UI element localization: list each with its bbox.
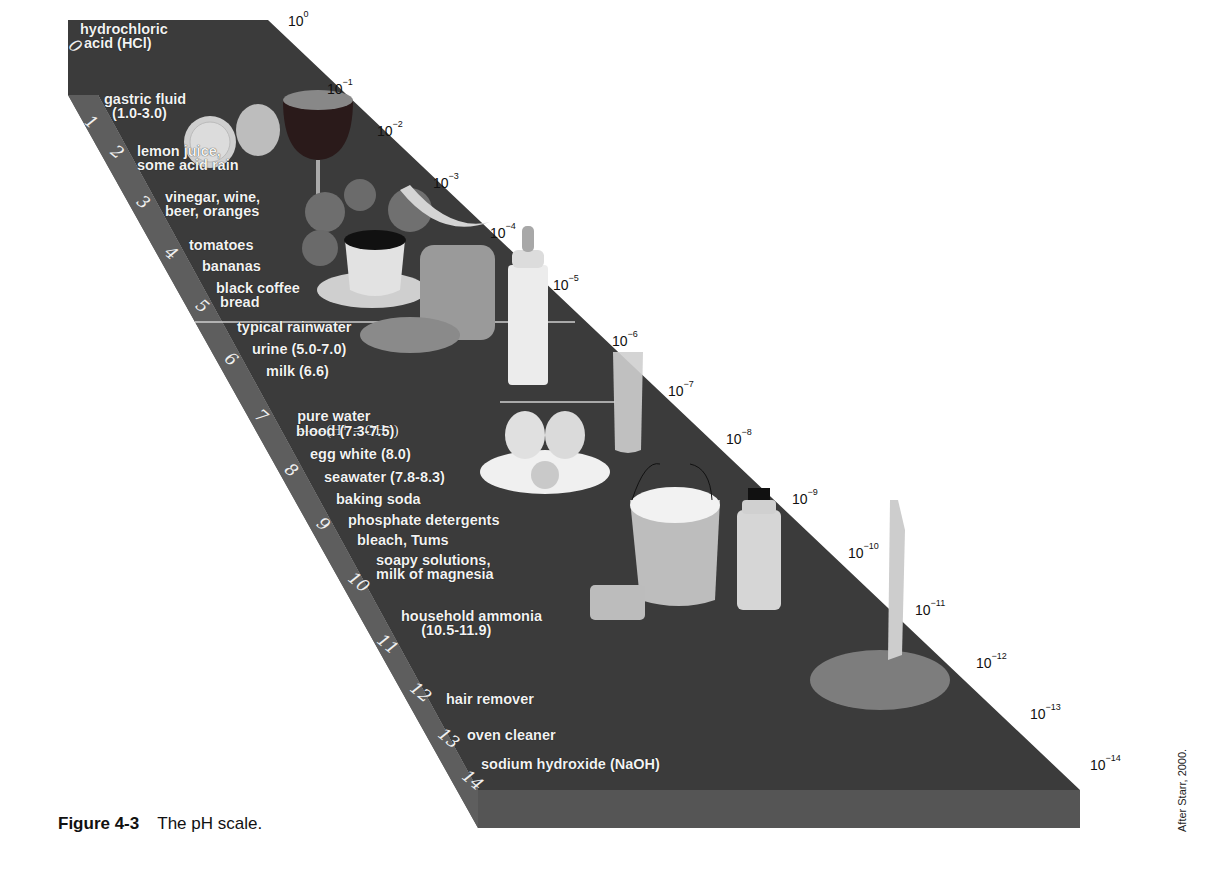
water-glass-icon: [613, 352, 643, 453]
label-household-ammonia: household ammonia (10.5-11.9): [401, 609, 542, 637]
label-typical-rainwater: typical rainwater: [237, 320, 351, 334]
slab-front-face: [478, 790, 1080, 828]
baby-bottle-icon: [508, 226, 548, 385]
label-blood: blood (7.3-7.5): [296, 424, 394, 438]
conc-label-4: 10−4: [490, 224, 516, 241]
bleach-bottle-icon: [737, 488, 781, 610]
conc-label-5: 10−5: [553, 276, 579, 293]
label-lemon-juice: lemon juice, some acid rain: [137, 144, 239, 172]
conc-label-13: 10−13: [1030, 705, 1061, 722]
conc-label-9: 10−9: [792, 490, 818, 507]
label-sodium-hydroxide: sodium hydroxide (NaOH): [481, 757, 660, 771]
conc-label-8: 10−8: [726, 430, 752, 447]
conc-label-11: 10−11: [915, 601, 945, 618]
conc-label-6: 10−6: [612, 332, 638, 349]
label-vinegar: vinegar, wine, beer, oranges: [165, 190, 260, 218]
conc-label-14: 10−14: [1090, 756, 1121, 773]
conc-label-2: 10−2: [377, 122, 403, 139]
ph-slab: [0, 0, 1217, 879]
label-oven-cleaner: oven cleaner: [467, 728, 556, 742]
figure-credit: After Starr, 2000.: [1176, 749, 1188, 832]
sponge-icon: [590, 585, 645, 620]
ph-scale-figure: 0 1 2 3 4 5 6 7 8 9 10 11 12 13 14 hydro…: [0, 0, 1217, 879]
label-bleach-tums: bleach, Tums: [357, 533, 449, 547]
label-soapy-solutions: soapy solutions, milk of magnesia: [376, 553, 494, 581]
conc-label-3: 10−3: [433, 174, 459, 191]
label-hair-remover: hair remover: [446, 692, 534, 706]
label-tomatoes: tomatoes: [189, 238, 253, 252]
label-bananas: bananas: [202, 259, 261, 273]
figure-caption: Figure 4-3The pH scale.: [58, 814, 262, 834]
conc-label-10: 10−10: [848, 544, 879, 561]
conc-label-12: 10−12: [976, 654, 1007, 671]
label-urine: urine (5.0-7.0): [252, 342, 346, 356]
label-gastric-fluid: gastric fluid (1.0-3.0): [104, 92, 186, 120]
label-phosphate-detergents: phosphate detergents: [348, 513, 499, 527]
label-egg-white: egg white (8.0): [310, 447, 411, 461]
label-seawater: seawater (7.8-8.3): [324, 470, 445, 484]
conc-label-1: 10−1: [327, 80, 353, 97]
label-baking-soda: baking soda: [336, 492, 421, 506]
label-milk: milk (6.6): [266, 364, 329, 378]
label-hydrochloric-acid: hydrochloric acid (HCl): [80, 22, 168, 50]
label-black-coffee: black coffee bread: [216, 281, 300, 309]
figure-number: Figure 4-3: [58, 814, 139, 833]
figure-title: The pH scale.: [157, 814, 262, 833]
conc-label-0: 100: [288, 12, 309, 29]
conc-label-7: 10−7: [668, 382, 694, 399]
